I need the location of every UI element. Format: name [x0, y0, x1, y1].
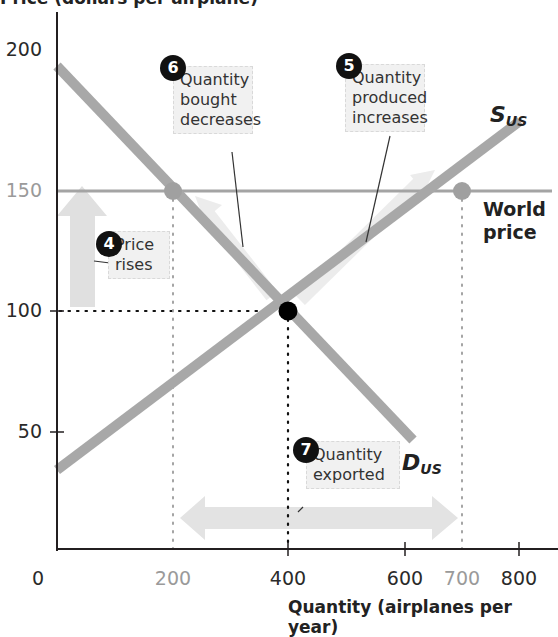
demand-curve-label: DUS [402, 450, 442, 477]
world-price-label-line1: World [483, 198, 546, 221]
x-tick-700: 700 [444, 567, 480, 589]
callout-quantity-exported: Quantity exported [306, 441, 400, 489]
callout-quantity-bought-decreases: Quantity bought decreases [173, 66, 253, 134]
callout-6-line2: bought [180, 90, 246, 110]
callout-5-line3: increases [352, 108, 418, 128]
callout-4-line1: Price [115, 235, 163, 255]
callout-6-line1: Quantity [180, 70, 246, 90]
callout-6-badge: 6 [160, 55, 186, 81]
y-tick-150: 150 [0, 179, 42, 201]
world-price-label: World price [483, 198, 546, 244]
x-axis-title: Quantity (airplanes per year) [288, 597, 558, 637]
x-tick-0: 0 [32, 567, 44, 589]
x-tick-800: 800 [501, 567, 537, 589]
x-tick-400: 400 [270, 567, 306, 589]
y-tick-200: 200 [0, 38, 42, 60]
callout-7-badge: 7 [293, 437, 319, 463]
callout-7-line1: Quantity [313, 445, 393, 465]
callout-5-line1: Quantity [352, 68, 418, 88]
world-price-label-line2: price [483, 221, 546, 244]
callout-5-line2: produced [352, 88, 418, 108]
no-trade-equilibrium-point [279, 302, 298, 321]
callout-5-badge: 5 [336, 53, 362, 79]
y-axis-title: Price (dollars per airplane) [0, 0, 258, 8]
y-tick-100: 100 [0, 299, 42, 321]
supply-curve-label: SUS [490, 102, 527, 129]
callout-6-line3: decreases [180, 110, 246, 130]
callout-7-line2: exported [313, 465, 393, 485]
callout-4-badge: 4 [96, 231, 122, 257]
x-tick-200: 200 [155, 567, 191, 589]
world-price-demand-point [164, 182, 182, 200]
quantity-exported-arrow [180, 496, 458, 540]
y-tick-50: 50 [0, 420, 42, 442]
x-tick-600: 600 [387, 567, 423, 589]
supply-curve [57, 121, 520, 470]
callout-4-line2: rises [115, 255, 163, 275]
world-price-supply-point [453, 182, 471, 200]
